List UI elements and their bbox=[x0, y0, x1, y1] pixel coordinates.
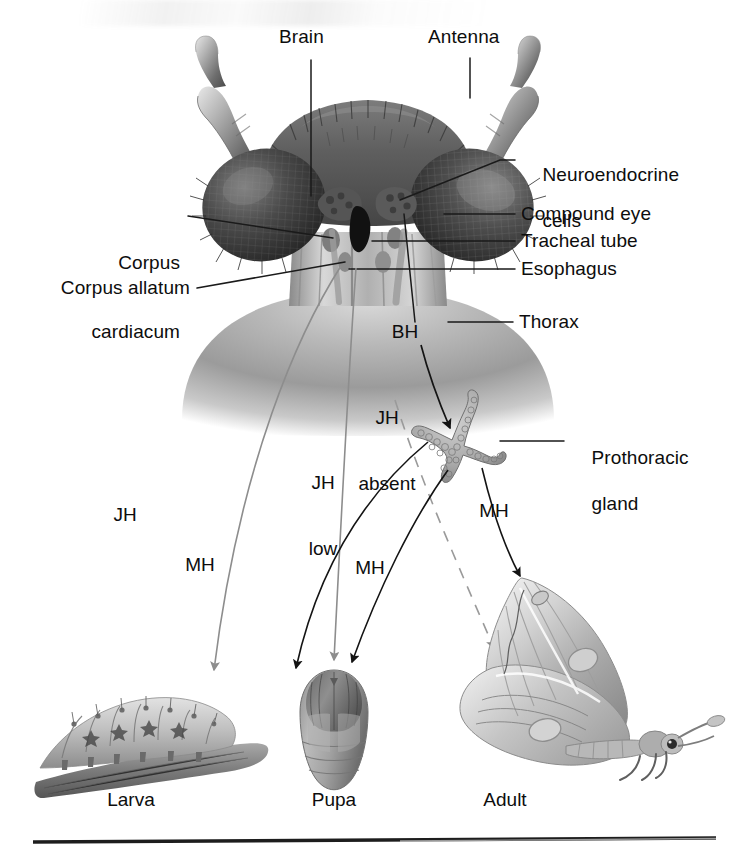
larva-illustration bbox=[34, 696, 268, 798]
label-jh-absent-line2: absent bbox=[350, 473, 424, 495]
label-mh-adult: MH bbox=[474, 500, 514, 522]
label-corpus-allatum: Corpus allatum bbox=[0, 277, 190, 299]
metamorphosis-figure: Brain Antenna Neuroendocrine cells Compo… bbox=[0, 0, 736, 854]
pupa-illustration bbox=[300, 670, 368, 790]
label-jh-absent-line1: JH bbox=[350, 407, 424, 429]
label-stage-larva: Larva bbox=[86, 789, 176, 811]
label-jh: JH bbox=[105, 504, 145, 526]
label-prothoracic-gland-line2: gland bbox=[592, 493, 639, 514]
label-compound-eye: Compound eye bbox=[521, 203, 651, 225]
label-stage-pupa: Pupa bbox=[289, 789, 379, 811]
bottom-rule bbox=[33, 838, 716, 842]
label-esophagus: Esophagus bbox=[521, 258, 617, 280]
label-brain: Brain bbox=[279, 26, 324, 48]
label-mh-larva: MH bbox=[180, 554, 220, 576]
label-jh-low-line1: JH bbox=[296, 472, 350, 494]
label-jh-low: JH low bbox=[296, 428, 350, 604]
adult-butterfly-illustration bbox=[460, 578, 726, 780]
label-bh: BH bbox=[385, 321, 425, 343]
label-corpus-cardiacum-line2: cardiacum bbox=[0, 320, 180, 343]
label-prothoracic-gland: Prothoracic gland bbox=[570, 423, 689, 538]
label-jh-absent: JH absent bbox=[350, 363, 424, 539]
label-antenna: Antenna bbox=[428, 26, 500, 48]
label-corpus-cardiacum-line1: Corpus bbox=[0, 251, 180, 274]
label-neuroendocrine-cells-line1: Neuroendocrine bbox=[543, 164, 680, 185]
label-thorax: Thorax bbox=[519, 311, 579, 333]
label-jh-low-line2: low bbox=[296, 538, 350, 560]
arrow-mh-to-adult bbox=[482, 468, 520, 576]
label-tracheal-tube: Tracheal tube bbox=[521, 230, 638, 252]
label-prothoracic-gland-line1: Prothoracic bbox=[592, 447, 689, 468]
label-mh-pupa: MH bbox=[350, 557, 390, 579]
label-stage-adult: Adult bbox=[460, 789, 550, 811]
